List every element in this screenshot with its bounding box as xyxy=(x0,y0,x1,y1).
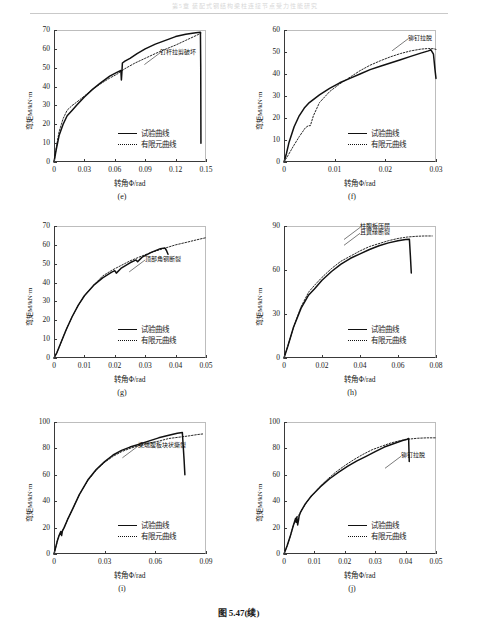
x-axis-tick-mark xyxy=(436,551,437,554)
y-axis-tick-mark xyxy=(54,320,57,321)
x-axis-tick-mark xyxy=(145,159,146,162)
chart-legend: 试验曲线有限元曲线 xyxy=(118,128,176,150)
legend-item-label: 有限元曲线 xyxy=(371,531,406,542)
x-axis-tick-mark xyxy=(206,159,207,162)
y-axis-tick-mark xyxy=(54,68,57,69)
y-axis-tick-label: 100 xyxy=(28,417,50,426)
x-axis-tick-label: 0.06 xyxy=(384,361,412,370)
y-axis-tick-mark xyxy=(54,554,57,555)
page-header: 第5章 装配式钢结构梁柱连接节点受力性能研究 xyxy=(0,0,477,16)
annotation-label: 梁端腹板块状撕裂 xyxy=(138,442,186,450)
y-axis-tick-mark xyxy=(54,30,57,31)
annotation-label: 钉杆拉剪破坏 xyxy=(160,49,196,57)
legend-item: 试验曲线 xyxy=(348,520,406,531)
chart-legend: 试验曲线有限元曲线 xyxy=(348,128,406,150)
y-axis-tick-mark xyxy=(54,264,57,265)
x-axis-tick-label: 0.12 xyxy=(162,165,190,174)
y-axis-tick-mark xyxy=(284,96,287,97)
chart-panel-g: 顶部角钢断裂01020304050607000.010.020.030.040.… xyxy=(18,216,226,412)
y-axis-tick-mark xyxy=(284,118,287,119)
chart-legend: 试验曲线有限元曲线 xyxy=(118,324,176,346)
x-axis-tick-label: 0 xyxy=(40,361,68,370)
legend-item: 有限元曲线 xyxy=(348,531,406,542)
x-axis-tick-label: 0.03 xyxy=(91,557,119,566)
x-axis-tick-label: 0.03 xyxy=(131,361,159,370)
y-axis-tick-mark xyxy=(284,448,287,449)
y-axis-tick-label: 60 xyxy=(258,470,280,479)
y-axis-tick-mark xyxy=(284,162,287,163)
legend-item: 有限元曲线 xyxy=(118,335,176,346)
annotation-label: 顶部角钢断裂 xyxy=(145,256,181,264)
y-axis-tick-label: 70 xyxy=(28,25,50,34)
legend-item: 试验曲线 xyxy=(118,520,176,531)
x-axis-tick-mark xyxy=(385,159,386,162)
x-axis-tick-mark xyxy=(436,159,437,162)
x-axis-tick-label: 0.06 xyxy=(101,165,129,174)
x-axis-tick-label: 0.15 xyxy=(192,165,220,174)
header-divider-rule xyxy=(30,13,448,14)
y-axis-tick-label: 50 xyxy=(28,63,50,72)
legend-item-label: 有限元曲线 xyxy=(141,139,176,150)
annotation-label: 且翼缘断裂 xyxy=(360,229,390,237)
y-axis-tick-mark xyxy=(284,554,287,555)
y-axis-tick-label: 10 xyxy=(28,138,50,147)
figure-panel-grid: 钉杆拉剪破坏01020304050607000.030.060.090.120.… xyxy=(0,16,477,608)
legend-key-solid-icon xyxy=(348,525,367,526)
x-axis-tick-mark xyxy=(155,551,156,554)
annotation-leader-line xyxy=(385,456,401,468)
legend-item: 试验曲线 xyxy=(118,324,176,335)
y-axis-tick-mark xyxy=(54,358,57,359)
x-axis-tick-label: 0 xyxy=(270,165,298,174)
annotation-leader-line xyxy=(344,233,360,245)
y-axis-tick-label: 80 xyxy=(28,443,50,452)
panel-tag-label: (e) xyxy=(18,192,226,201)
y-axis-title: 弯矩M/kN·m xyxy=(24,484,34,523)
y-axis-tick-mark xyxy=(54,475,57,476)
legend-key-solid-icon xyxy=(348,133,367,134)
x-axis-title: 转角Φ/rad xyxy=(54,177,206,188)
y-axis-tick-label: 60 xyxy=(28,240,50,249)
chart-legend: 试验曲线有限元曲线 xyxy=(348,520,406,542)
chart-panel-h: 柱腹板压屈且翼缘断裂030609000.020.040.060.08试验曲线有限… xyxy=(248,216,456,412)
chart-panel-j: 铆钉拉脱02040608010000.010.020.030.040.05试验曲… xyxy=(248,412,456,608)
y-axis-title: 弯矩M/kN·m xyxy=(254,92,264,131)
x-axis-tick-mark xyxy=(54,551,55,554)
annotation-label: 铆钉拉脱 xyxy=(401,452,425,460)
y-axis-tick-mark xyxy=(54,105,57,106)
y-axis-tick-label: 60 xyxy=(28,470,50,479)
y-axis-title: 弯矩M/kN·m xyxy=(24,92,34,131)
x-axis-tick-mark xyxy=(115,355,116,358)
x-axis-tick-mark xyxy=(176,159,177,162)
y-axis-tick-label: 10 xyxy=(258,135,280,144)
x-axis-tick-mark xyxy=(345,551,346,554)
x-axis-tick-label: 0.06 xyxy=(141,557,169,566)
legend-item: 有限元曲线 xyxy=(348,139,406,150)
legend-key-solid-icon xyxy=(118,525,137,526)
y-axis-tick-mark xyxy=(54,448,57,449)
y-axis-tick-mark xyxy=(54,339,57,340)
annotation-label: 铆钉拉脱 xyxy=(408,35,432,43)
x-axis-tick-label: 0.02 xyxy=(331,557,359,566)
x-axis-tick-label: 0.02 xyxy=(371,165,399,174)
legend-key-dotted-icon xyxy=(348,340,367,341)
y-axis-tick-label: 60 xyxy=(258,265,280,274)
y-axis-tick-mark xyxy=(284,30,287,31)
y-axis-tick-mark xyxy=(54,226,57,227)
x-axis-tick-label: 0.02 xyxy=(101,361,129,370)
x-axis-tick-mark xyxy=(398,355,399,358)
legend-key-solid-icon xyxy=(118,329,137,330)
x-axis-tick-label: 0.01 xyxy=(300,557,328,566)
y-axis-tick-label: 40 xyxy=(28,82,50,91)
x-axis-tick-mark xyxy=(360,355,361,358)
y-axis-tick-label: 20 xyxy=(28,523,50,532)
y-axis-tick-mark xyxy=(54,501,57,502)
x-axis-tick-mark xyxy=(406,551,407,554)
x-axis-tick-label: 0.05 xyxy=(422,557,450,566)
legend-item-label: 试验曲线 xyxy=(141,128,169,139)
x-axis-title: 转角Φ/rad xyxy=(54,373,206,384)
chart-legend: 试验曲线有限元曲线 xyxy=(118,520,176,542)
x-axis-tick-label: 0.02 xyxy=(308,361,336,370)
y-axis-tick-mark xyxy=(284,358,287,359)
plot-area: 铆钉拉脱02040608010000.010.020.030.040.05试验曲… xyxy=(284,422,436,554)
legend-item-label: 有限元曲线 xyxy=(141,531,176,542)
